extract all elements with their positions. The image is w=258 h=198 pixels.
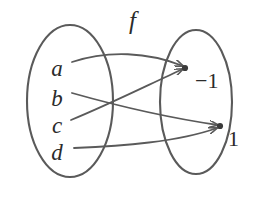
codomain-element-neg1: −1 bbox=[195, 70, 218, 92]
domain-element-c: c bbox=[52, 114, 62, 137]
function-mapping-diagram: f a b c d −1 1 bbox=[0, 0, 258, 198]
mapping-arrow-c-to-neg1 bbox=[71, 69, 183, 120]
domain-element-d: d bbox=[51, 141, 63, 164]
function-name-label: f bbox=[129, 8, 136, 33]
mapping-arrow-d-to-1 bbox=[74, 128, 217, 148]
codomain-point-neg1 bbox=[182, 65, 188, 71]
codomain-ellipse bbox=[160, 30, 232, 174]
domain-element-b: b bbox=[51, 87, 63, 110]
codomain-point-1 bbox=[217, 123, 223, 129]
codomain-element-1: 1 bbox=[228, 128, 239, 150]
domain-element-a: a bbox=[51, 57, 63, 80]
mapping-arrow-b-to-1 bbox=[72, 93, 218, 125]
